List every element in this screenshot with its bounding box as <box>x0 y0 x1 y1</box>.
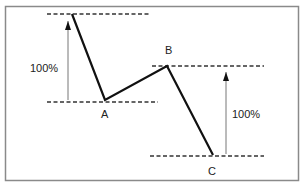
point-b-label: B <box>165 44 172 56</box>
first-leg-percent-label: 100% <box>30 62 58 74</box>
price-path-line <box>72 14 213 155</box>
first-leg-arrowhead-icon <box>65 21 71 30</box>
second-leg-arrowhead-icon <box>223 72 229 81</box>
zigzag-diagram: 100% 100% A B C <box>0 0 304 186</box>
point-a-label: A <box>101 108 109 120</box>
diagram-frame <box>6 7 299 181</box>
second-leg-percent-label: 100% <box>232 108 260 120</box>
point-c-label: C <box>208 165 216 177</box>
